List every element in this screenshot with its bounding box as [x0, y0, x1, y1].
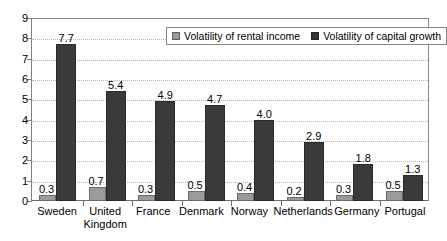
- bar-rental-income[interactable]: 0.3: [336, 195, 353, 201]
- bar-value-label: 1.8: [356, 153, 371, 164]
- category-label: Sweden: [33, 205, 81, 232]
- bar-value-label: 0.2: [286, 186, 301, 197]
- bar-value-label: 0.3: [336, 184, 351, 195]
- bar-group: 0.44.0: [231, 18, 281, 201]
- bar-capital-growth[interactable]: 2.9: [304, 142, 324, 201]
- bar-capital-growth[interactable]: 4.9: [155, 101, 175, 201]
- bar-rental-income[interactable]: 0.5: [188, 191, 205, 201]
- category-label: Netherlands: [273, 205, 332, 232]
- category-label: Denmark: [177, 205, 225, 232]
- bar-rental-income[interactable]: 0.3: [39, 195, 56, 201]
- legend: Volatility of rental income Volatility o…: [166, 27, 447, 45]
- bar-capital-growth[interactable]: 7.7: [56, 44, 76, 201]
- category-label: Germany: [333, 205, 381, 232]
- bar-pair: 0.75.4: [89, 18, 126, 201]
- bar-value-label: 1.3: [405, 164, 420, 175]
- bar-pair: 0.22.9: [287, 18, 324, 201]
- legend-label: Volatility of capital growth: [323, 31, 441, 42]
- bar-rental-income[interactable]: 0.5: [386, 191, 403, 201]
- legend-label: Volatility of rental income: [184, 31, 300, 42]
- bar-group: 0.34.9: [132, 18, 182, 201]
- legend-item-capital-growth[interactable]: Volatility of capital growth: [311, 31, 441, 42]
- category-label: Portugal: [381, 205, 429, 232]
- dark-gray-square-icon: [311, 32, 319, 40]
- bar-pair: 0.44.0: [237, 18, 274, 201]
- bar-group: 0.37.7: [33, 18, 83, 201]
- bar-value-label: 0.7: [88, 176, 103, 187]
- bar-value-label: 0.4: [237, 182, 252, 193]
- bar-groups: 0.37.70.75.40.34.90.54.70.44.00.22.90.31…: [33, 18, 429, 201]
- y-tick-label: 7: [8, 53, 28, 64]
- bar-value-label: 0.5: [385, 180, 400, 191]
- bar-rental-income[interactable]: 0.7: [89, 187, 106, 201]
- bar-value-label: 0.3: [138, 184, 153, 195]
- bar-rental-income[interactable]: 0.3: [138, 195, 155, 201]
- y-tick-label: 0: [8, 196, 28, 207]
- bar-group: 0.51.3: [380, 18, 430, 201]
- legend-item-rental-income[interactable]: Volatility of rental income: [172, 31, 300, 42]
- bar-pair: 0.54.7: [188, 18, 225, 201]
- bar-value-label: 4.0: [257, 109, 272, 120]
- bar-value-label: 4.9: [158, 90, 173, 101]
- y-axis-tick-labels: 9 8 7 6 5 4 3 2 1 0: [8, 14, 28, 199]
- y-axis-line: [31, 18, 32, 201]
- bar-group: 0.54.7: [182, 18, 232, 201]
- bar-group: 0.31.8: [330, 18, 380, 201]
- light-gray-square-icon: [172, 32, 180, 40]
- bar-pair: 0.31.8: [336, 18, 373, 201]
- category-label: France: [129, 205, 177, 232]
- bar-value-label: 5.4: [108, 80, 123, 91]
- bar-capital-growth[interactable]: 1.3: [403, 175, 423, 201]
- y-tick-label: 2: [8, 155, 28, 166]
- y-tick-label: 6: [8, 74, 28, 85]
- bar-capital-growth[interactable]: 1.8: [353, 164, 373, 201]
- bar-value-label: 0.5: [187, 180, 202, 191]
- bar-pair: 0.37.7: [39, 18, 76, 201]
- category-label: United Kingdom: [81, 205, 129, 232]
- y-tick-label: 5: [8, 94, 28, 105]
- bar-value-label: 7.7: [59, 33, 74, 44]
- bar-value-label: 2.9: [306, 131, 321, 142]
- bar-group: 0.22.9: [281, 18, 331, 201]
- bar-pair: 0.51.3: [386, 18, 423, 201]
- y-tick-label: 8: [8, 33, 28, 44]
- y-tick-label: 4: [8, 114, 28, 125]
- bar-rental-income[interactable]: 0.2: [287, 197, 304, 201]
- bar-capital-growth[interactable]: 4.0: [254, 120, 274, 201]
- category-label: Norway: [225, 205, 273, 232]
- bar-group: 0.75.4: [83, 18, 133, 201]
- bar-value-label: 0.3: [39, 184, 54, 195]
- category-labels: SwedenUnited KingdomFranceDenmarkNorwayN…: [33, 205, 429, 232]
- bar-capital-growth[interactable]: 4.7: [205, 105, 225, 201]
- y-tick-label: 3: [8, 135, 28, 146]
- bar-capital-growth[interactable]: 5.4: [106, 91, 126, 201]
- bar-rental-income[interactable]: 0.4: [237, 193, 254, 201]
- y-tick-label: 9: [8, 13, 28, 24]
- bar-value-label: 4.7: [207, 94, 222, 105]
- y-tick-label: 1: [8, 175, 28, 186]
- bar-pair: 0.34.9: [138, 18, 175, 201]
